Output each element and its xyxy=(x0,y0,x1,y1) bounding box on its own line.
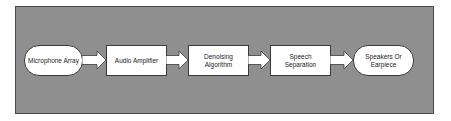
diagram-canvas: Microphone Array Audio Amplifier Denoisi… xyxy=(0,0,451,121)
node-label: Audio Amplifier xyxy=(115,57,158,65)
node-speech-separation: Speech Separation xyxy=(270,45,331,76)
block-arrow-icon xyxy=(166,50,189,70)
node-audio-amplifier: Audio Amplifier xyxy=(106,45,167,76)
block-arrow-icon xyxy=(330,50,354,70)
node-label: Denoising Algorithm xyxy=(204,53,233,69)
block-arrow-icon xyxy=(82,50,107,70)
node-speakers-or-earpiece: Speakers Or Earpiece xyxy=(353,45,414,76)
block-arrow-icon xyxy=(248,50,271,70)
node-label: Microphone Array xyxy=(28,57,79,65)
node-label: Speakers Or Earpiece xyxy=(365,53,402,69)
node-microphone-array: Microphone Array xyxy=(24,45,83,76)
node-label: Speech Separation xyxy=(285,53,316,69)
node-denoising-algorithm: Denoising Algorithm xyxy=(188,45,249,76)
